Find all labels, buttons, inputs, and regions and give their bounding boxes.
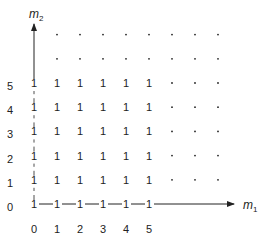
- ellipsis-dot: [56, 58, 58, 60]
- ellipsis-dot: [79, 34, 81, 36]
- ellipsis-dot: [194, 106, 196, 108]
- cell-value: 1: [31, 198, 37, 210]
- ellipsis-dot: [171, 155, 173, 157]
- ellipsis-dot: [125, 58, 127, 60]
- y-tick-label: 3: [7, 128, 13, 140]
- x-tick-label: 0: [31, 223, 37, 235]
- ellipsis-dot: [102, 34, 104, 36]
- cell-value: 1: [31, 150, 37, 162]
- cell-value: 1: [77, 77, 83, 89]
- cell-value: 1: [54, 125, 60, 137]
- cell-value: 1: [100, 125, 106, 137]
- cell-value: 1: [100, 150, 106, 162]
- cell-value: 1: [31, 174, 37, 186]
- cell-value: 1: [100, 101, 106, 113]
- ellipsis-dot: [194, 179, 196, 181]
- cell-value: 1: [100, 198, 106, 210]
- y-tick-label: 0: [7, 201, 13, 213]
- y-tick-label: 5: [7, 80, 13, 92]
- ellipsis-dot: [102, 58, 104, 60]
- tick-labels: m2m1012345012345: [7, 7, 258, 235]
- ellipsis-dot: [56, 34, 58, 36]
- cell-value: 1: [100, 174, 106, 186]
- cell-value: 1: [123, 198, 129, 210]
- ellipsis-dot: [148, 34, 150, 36]
- x-tick-label: 2: [77, 223, 83, 235]
- ellipsis-dot: [171, 106, 173, 108]
- ellipsis-dot: [217, 155, 219, 157]
- ellipsis-dot: [194, 82, 196, 84]
- ellipsis-dot: [171, 179, 173, 181]
- cell-value: 1: [146, 77, 152, 89]
- y-tick-label: 2: [7, 153, 13, 165]
- ellipsis-dot: [125, 34, 127, 36]
- grid-cells: 111111111111111111111111111111111111: [31, 34, 219, 210]
- ellipsis-dot: [148, 58, 150, 60]
- cell-value: 1: [123, 77, 129, 89]
- cell-value: 1: [123, 125, 129, 137]
- ellipsis-dot: [194, 58, 196, 60]
- ellipsis-dot: [171, 58, 173, 60]
- cell-value: 1: [146, 174, 152, 186]
- x-tick-label: 4: [123, 223, 129, 235]
- ellipsis-dot: [194, 34, 196, 36]
- cell-value: 1: [54, 77, 60, 89]
- cell-value: 1: [77, 198, 83, 210]
- ellipsis-dot: [217, 34, 219, 36]
- cell-value: 1: [123, 101, 129, 113]
- cell-value: 1: [31, 77, 37, 89]
- cell-value: 1: [77, 101, 83, 113]
- cell-value: 1: [31, 101, 37, 113]
- y-tick-label: 4: [7, 104, 13, 116]
- cell-value: 1: [54, 150, 60, 162]
- cell-value: 1: [31, 125, 37, 137]
- cell-value: 1: [146, 198, 152, 210]
- ellipsis-dot: [217, 179, 219, 181]
- ellipsis-dot: [194, 155, 196, 157]
- cell-value: 1: [77, 125, 83, 137]
- cell-value: 1: [123, 174, 129, 186]
- cell-value: 1: [77, 174, 83, 186]
- x-tick-label: 1: [54, 223, 60, 235]
- y-axis-label: m2: [29, 7, 44, 23]
- lattice-diagram: 111111111111111111111111111111111111 m2m…: [0, 0, 264, 242]
- cell-value: 1: [54, 101, 60, 113]
- ellipsis-dot: [217, 106, 219, 108]
- x-tick-label: 5: [146, 223, 152, 235]
- cell-value: 1: [100, 77, 106, 89]
- ellipsis-dot: [171, 131, 173, 133]
- cell-value: 1: [54, 198, 60, 210]
- x-tick-label: 3: [100, 223, 106, 235]
- ellipsis-dot: [194, 131, 196, 133]
- cell-value: 1: [146, 101, 152, 113]
- ellipsis-dot: [171, 82, 173, 84]
- ellipsis-dot: [79, 58, 81, 60]
- ellipsis-dot: [217, 58, 219, 60]
- ellipsis-dot: [217, 131, 219, 133]
- cell-value: 1: [77, 150, 83, 162]
- axes: [34, 24, 234, 204]
- y-tick-label: 1: [7, 177, 13, 189]
- cell-value: 1: [54, 174, 60, 186]
- ellipsis-dot: [171, 34, 173, 36]
- cell-value: 1: [146, 125, 152, 137]
- cell-value: 1: [146, 150, 152, 162]
- x-axis-label: m1: [243, 198, 258, 214]
- cell-value: 1: [123, 150, 129, 162]
- ellipsis-dot: [217, 82, 219, 84]
